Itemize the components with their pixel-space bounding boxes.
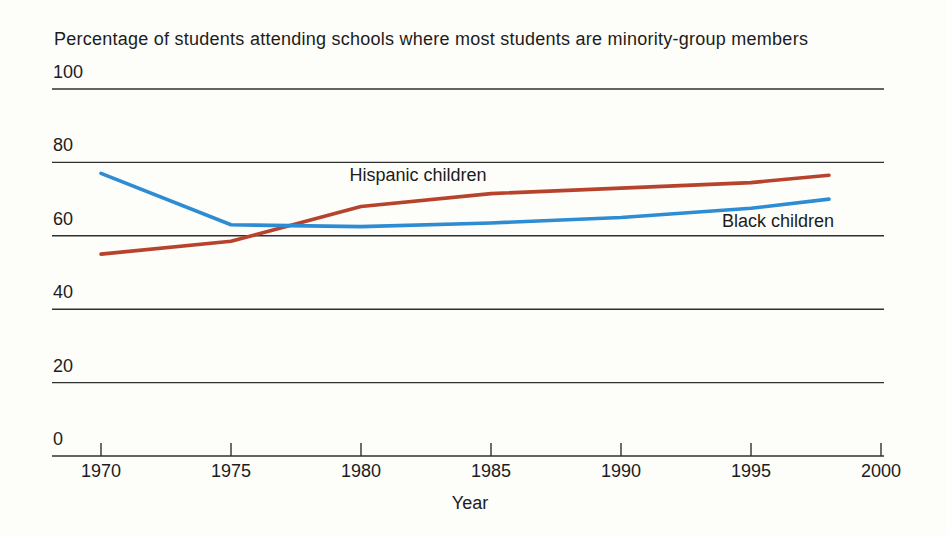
series-label-black-children: Black children bbox=[722, 211, 834, 232]
y-tick-label-80: 80 bbox=[53, 135, 73, 155]
x-tick-label-1990: 1990 bbox=[601, 461, 641, 481]
y-tick-label-0: 0 bbox=[53, 429, 63, 449]
x-axis-title: Year bbox=[452, 493, 488, 514]
x-tick-label-1970: 1970 bbox=[81, 461, 121, 481]
series-label-hispanic-children: Hispanic children bbox=[349, 165, 486, 186]
x-tick-label-1995: 1995 bbox=[731, 461, 771, 481]
x-tick-label-2000: 2000 bbox=[861, 461, 901, 481]
x-tick-label-1985: 1985 bbox=[471, 461, 511, 481]
y-tick-label-60: 60 bbox=[53, 209, 73, 229]
x-tick-label-1980: 1980 bbox=[341, 461, 381, 481]
y-tick-label-40: 40 bbox=[53, 282, 73, 302]
chart-page: Percentage of students attending schools… bbox=[0, 0, 947, 535]
x-tick-label-1975: 1975 bbox=[211, 461, 251, 481]
y-tick-label-100: 100 bbox=[53, 62, 83, 82]
y-tick-label-20: 20 bbox=[53, 356, 73, 376]
plot-area bbox=[0, 0, 947, 535]
